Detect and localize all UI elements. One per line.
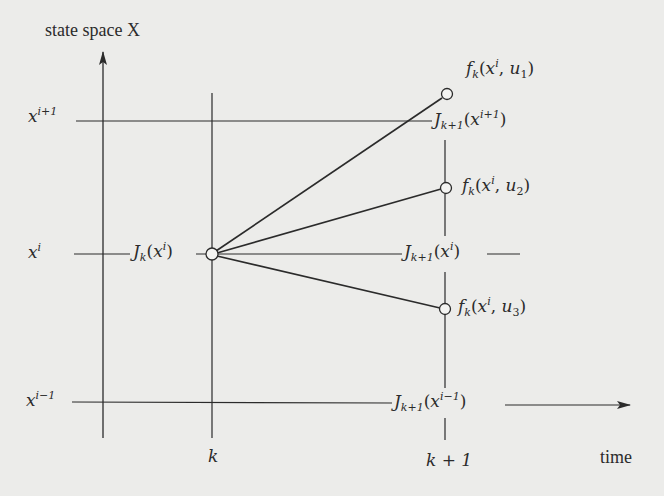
dp-diagram: state space X time xi+1 xi xi−1 k k + 1 …: [0, 0, 664, 496]
time-label-k-plus-1: k + 1: [424, 452, 474, 469]
cost-label-Jk1-xi: Jk+1(xi): [402, 243, 462, 260]
transition-label-u1: fk(xi, u1): [464, 60, 536, 77]
cost-label-Jk1-xim1: Jk+1(xi−1): [392, 393, 468, 410]
y-axis-title: state space X: [43, 21, 142, 39]
state-label-i: xi: [26, 244, 43, 261]
transition-label-u2: fk(xi, u2): [460, 177, 532, 194]
node-xi-k: [206, 248, 218, 260]
diagram-lines: [0, 0, 664, 496]
state-label-i-plus-1: xi+1: [26, 108, 59, 125]
cost-label-Jk-xi: Jk(xi): [131, 243, 175, 260]
time-label-k: k: [206, 448, 220, 465]
state-line-i-minus-1: [72, 402, 392, 403]
transition-label-u3: fk(xi, u3): [456, 298, 528, 315]
state-label-i-minus-1: xi−1: [24, 392, 57, 409]
x-axis-title: time: [598, 448, 634, 466]
node-u1: [442, 89, 453, 100]
node-u3: [440, 304, 451, 315]
node-u2: [441, 183, 452, 194]
cost-label-Jk1-xi1: Jk+1(xi+1): [432, 111, 508, 128]
transition-u3: [217, 256, 440, 308]
